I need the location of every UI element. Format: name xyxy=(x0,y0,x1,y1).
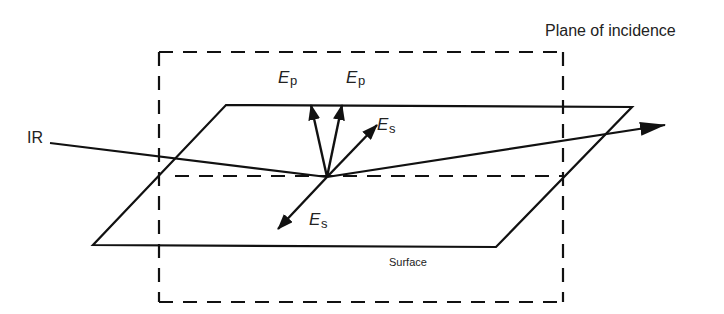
ep-right-arrow xyxy=(327,105,342,177)
diagram-canvas: Plane of incidence IR Surface E p E p E … xyxy=(0,0,724,314)
plane-of-incidence-label: Plane of incidence xyxy=(545,22,676,39)
es-up-arrow xyxy=(327,125,377,177)
ir-label: IR xyxy=(27,129,43,146)
surface-label: Surface xyxy=(389,256,427,268)
es-down-label: E s xyxy=(309,210,328,231)
svg-text:p: p xyxy=(358,73,365,88)
svg-text:E: E xyxy=(278,68,290,87)
svg-text:s: s xyxy=(321,216,328,231)
svg-text:E: E xyxy=(377,115,389,134)
svg-text:s: s xyxy=(389,121,396,136)
incident-ir-beam xyxy=(50,143,327,177)
svg-text:E: E xyxy=(346,68,358,87)
svg-text:p: p xyxy=(290,73,297,88)
ep-left-label: E p xyxy=(278,68,297,88)
ep-right-label: E p xyxy=(346,68,365,88)
plane-of-incidence xyxy=(159,52,563,302)
svg-text:E: E xyxy=(309,210,321,229)
surface-plane xyxy=(93,105,632,247)
ep-left-arrow xyxy=(311,105,327,177)
es-up-label: E s xyxy=(377,115,396,136)
